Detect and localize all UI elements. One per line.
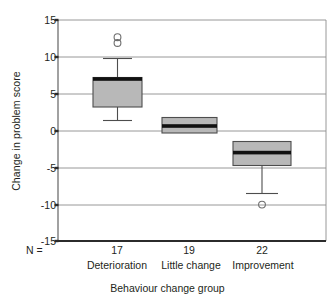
grid-lines [58, 20, 326, 205]
box-plot-deterioration [93, 34, 142, 121]
box-plot-figure: Change in problem score Behaviour change… [0, 0, 335, 302]
box-plot-little-change [162, 118, 217, 134]
plot-canvas [0, 0, 335, 302]
box-plot-improvement [233, 142, 291, 209]
